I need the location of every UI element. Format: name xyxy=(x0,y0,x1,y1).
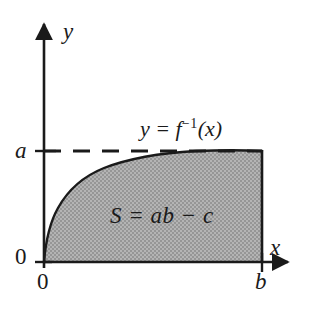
origin-label-on-x-axis: 0 xyxy=(37,270,49,293)
y-tick-label-a: a xyxy=(15,139,27,162)
x-axis-label: x xyxy=(270,236,280,259)
x-tick-label-b: b xyxy=(255,270,267,293)
origin-label-on-y-axis: 0 xyxy=(15,245,27,268)
curve-equation-exponent: −1 xyxy=(182,116,198,131)
figure-canvas: y x a b 0 0 y = f−1(x) S = ab − c xyxy=(0,0,309,309)
curve-equation-label: y = f−1(x) xyxy=(140,117,222,140)
area-formula-label: S = ab − c xyxy=(110,204,214,227)
y-axis-label: y xyxy=(63,20,73,43)
curve-equation-argument: (x) xyxy=(198,116,222,141)
curve-equation-prefix: y = f xyxy=(140,116,182,141)
diagram-svg xyxy=(0,0,309,309)
